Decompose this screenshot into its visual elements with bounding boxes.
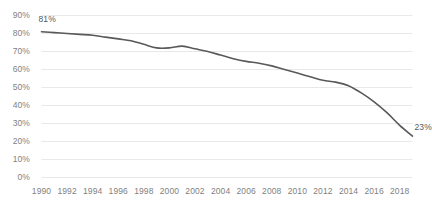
y-axis-label-80: 80% <box>0 28 30 38</box>
x-axis-label-1992: 1992 <box>57 186 76 196</box>
x-axis-label-1996: 1996 <box>109 186 128 196</box>
x-axis-label-2006: 2006 <box>237 186 256 196</box>
x-axis-label-2008: 2008 <box>262 186 281 196</box>
y-axis-label-50: 50% <box>0 82 30 92</box>
gridlines <box>42 16 413 178</box>
x-axis-label-2014: 2014 <box>339 186 358 196</box>
x-axis-label-2010: 2010 <box>288 186 307 196</box>
y-axis-label-0: 0% <box>0 172 30 182</box>
y-axis-label-60: 60% <box>0 64 30 74</box>
x-axis-label-1998: 1998 <box>134 186 153 196</box>
y-axis-label-90: 90% <box>0 10 30 20</box>
last-point-label: 23% <box>415 122 432 132</box>
y-axis-label-10: 10% <box>0 154 30 164</box>
data-line-series-1 <box>42 32 413 136</box>
first-point-label: 81% <box>39 14 56 24</box>
x-axis-label-1994: 1994 <box>83 186 102 196</box>
y-axis-label-30: 30% <box>0 118 30 128</box>
x-axis-label-2012: 2012 <box>313 186 332 196</box>
x-axis-label-2016: 2016 <box>364 186 383 196</box>
y-axis-label-20: 20% <box>0 136 30 146</box>
x-axis-label-2018: 2018 <box>390 186 409 196</box>
x-axis-label-2004: 2004 <box>211 186 230 196</box>
y-axis-label-40: 40% <box>0 100 30 110</box>
y-axis-label-70: 70% <box>0 46 30 56</box>
x-axis-label-1990: 1990 <box>32 186 51 196</box>
x-axis-label-2000: 2000 <box>160 186 179 196</box>
x-axis-label-2002: 2002 <box>185 186 204 196</box>
